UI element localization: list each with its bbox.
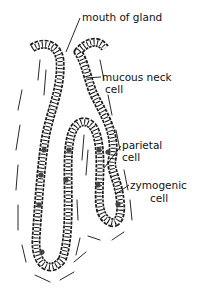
label-mucous-neck-cell-line2: cell — [105, 84, 123, 95]
label-parietal-cell-line2: cell — [122, 152, 140, 163]
label-mucous-neck-cell: mucous neck — [102, 72, 172, 83]
label-parietal-cell: parietal — [122, 140, 162, 151]
label-zymogenic-cell-line2: cell — [150, 193, 168, 204]
label-zymogenic-cell: zymogenic — [130, 180, 187, 191]
label-mouth-of-gland: mouth of gland — [82, 12, 162, 23]
gastric-gland-diagram — [0, 0, 198, 299]
